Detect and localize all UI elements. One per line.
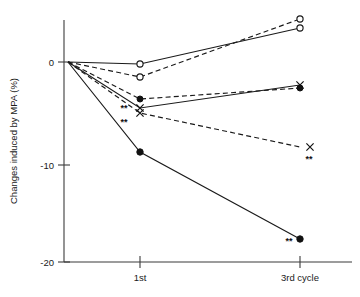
series-5-path [68, 62, 300, 147]
series-6-filled-circle-solid [68, 62, 303, 242]
significance-annotations: ** ** ** ** [120, 103, 313, 246]
y-tick-label-minus10: -10 [40, 160, 54, 171]
sig-annotation-3: ** [305, 154, 313, 164]
series-3-marker-1st [137, 96, 143, 102]
series-5-cross-dashed [68, 62, 314, 151]
series-5-marker-3rd [306, 143, 313, 150]
sig-annotation-2: ** [120, 117, 128, 127]
y-axis: 0 -10 -20 Changes induced by MPA (%) [8, 20, 70, 268]
chart-figure: 0 -10 -20 Changes induced by MPA (%) 1st… [0, 0, 360, 297]
series-2-marker-1st [137, 74, 143, 80]
series-1-path [68, 28, 300, 64]
series-3-filled-circle-dashed [68, 62, 303, 102]
series-3-marker-3rd [297, 85, 303, 91]
sig-annotation-1: ** [120, 103, 128, 113]
series-1-marker-3rd [297, 25, 303, 31]
series-3-path [68, 62, 300, 99]
series-6-marker-1st [137, 149, 143, 155]
x-axis: 1st 3rd cycle [64, 256, 352, 283]
series-1-marker-1st [137, 61, 143, 67]
series-2-path [68, 19, 300, 77]
line-chart: 0 -10 -20 Changes induced by MPA (%) 1st… [0, 0, 360, 297]
y-axis-title: Changes induced by MPA (%) [8, 78, 19, 204]
y-tick-label-0: 0 [49, 57, 54, 68]
x-tick-label-3rd-cycle: 3rd cycle [281, 272, 319, 283]
x-tick-label-1st: 1st [134, 272, 147, 283]
series-2-open-circle-dashed [68, 16, 303, 80]
series-6-path [68, 62, 300, 239]
sig-annotation-4: ** [285, 236, 293, 246]
y-tick-label-minus20: -20 [40, 257, 54, 268]
series-2-marker-3rd [297, 16, 303, 22]
series-6-marker-3rd [297, 236, 303, 242]
